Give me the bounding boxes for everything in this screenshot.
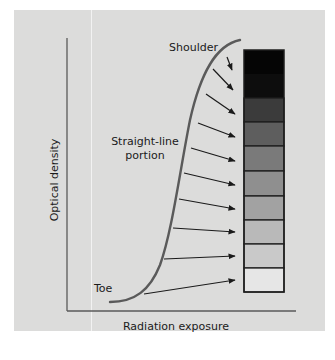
- x-axis-label: Radiation exposure: [123, 320, 229, 333]
- arrow: [198, 123, 235, 137]
- wedge-step: [244, 74, 284, 98]
- y-axis-label: Optical density: [48, 138, 61, 221]
- wedge-step: [244, 196, 284, 220]
- shoulder-label: Shoulder: [169, 41, 218, 54]
- wedge-step: [244, 122, 284, 146]
- arrow: [227, 57, 232, 70]
- wedge-step: [244, 268, 284, 292]
- wedge-step: [244, 50, 284, 74]
- arrow: [144, 280, 235, 294]
- arrow: [173, 228, 235, 232]
- wedge-step: [244, 146, 284, 171]
- characteristic-curve: [110, 40, 240, 302]
- wedge-step: [244, 171, 284, 196]
- wedge-step: [244, 220, 284, 244]
- arrow-group: [144, 57, 235, 294]
- arrow: [179, 199, 235, 209]
- arrow: [164, 256, 235, 259]
- arrow: [213, 69, 233, 90]
- wedge-step: [244, 98, 284, 122]
- wedge-step: [244, 244, 284, 268]
- step-wedge: [244, 50, 284, 292]
- arrow: [191, 148, 235, 161]
- arrow: [184, 173, 235, 185]
- straight-line-label-line2: portion: [125, 149, 164, 162]
- arrow: [206, 94, 235, 114]
- characteristic-curve-diagram: Optical density Radiation exposure Shoul…: [0, 0, 335, 360]
- toe-label: Toe: [93, 282, 113, 295]
- straight-line-label-line1: Straight-line: [111, 135, 179, 148]
